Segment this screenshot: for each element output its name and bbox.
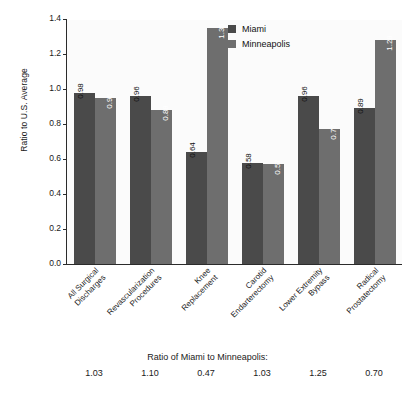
- legend-item[interactable]: Miami: [228, 24, 290, 34]
- ratio-value: 1.10: [125, 368, 175, 378]
- bar-group: 0.580.57: [235, 20, 291, 264]
- y-tick-label: 0.4: [49, 188, 61, 198]
- bar-value-label: 1.28: [386, 35, 394, 51]
- y-tick-mark: [63, 264, 67, 265]
- x-axis-category-labels: All SurgicalDischargesRevascularizationP…: [66, 266, 402, 346]
- ratio-title: Ratio of Miami to Minneapolis:: [0, 352, 415, 362]
- bar-value-label: 0.96: [301, 86, 309, 102]
- y-tick-label: 0.2: [49, 223, 61, 233]
- bar-group: 0.960.88: [123, 20, 179, 264]
- bar-minneapolis: 1.28: [375, 40, 396, 264]
- bar-minneapolis: 0.95: [95, 98, 116, 264]
- bar-series-container: 0.980.950.960.880.641.350.580.570.960.77…: [67, 20, 402, 264]
- bar-value-label: 0.57: [274, 159, 282, 175]
- bar-value-label: 0.88: [162, 105, 170, 121]
- ratio-value: 1.03: [69, 368, 119, 378]
- bar-group: 0.980.95: [67, 20, 123, 264]
- bar-value-label: 0.77: [330, 124, 338, 140]
- bar-miami: 0.96: [130, 96, 151, 264]
- legend-item[interactable]: Minneapolis: [228, 39, 290, 49]
- ratio-value: 0.47: [181, 368, 231, 378]
- bar-minneapolis: 0.77: [319, 129, 340, 264]
- legend-swatch-icon: [228, 25, 236, 33]
- legend-label: Miami: [242, 24, 266, 34]
- bar-chart-figure: Ratio to U.S. Average 0.00.20.40.60.81.0…: [0, 0, 415, 395]
- bar-value-label: 0.89: [357, 98, 365, 114]
- bar-minneapolis: 0.88: [151, 110, 172, 264]
- bar-value-label: 0.96: [133, 86, 141, 102]
- y-axis-title: Ratio to U.S. Average: [19, 40, 29, 180]
- chart-legend: MiamiMinneapolis: [228, 24, 290, 54]
- legend-swatch-icon: [228, 40, 236, 48]
- plot-area: 0.00.20.40.60.81.01.21.4 0.980.950.960.8…: [66, 20, 402, 265]
- ratio-value: 0.70: [349, 368, 399, 378]
- ratio-value: 1.25: [293, 368, 343, 378]
- bar-value-label: 0.64: [189, 142, 197, 158]
- y-tick-label: 1.4: [49, 13, 61, 23]
- bar-value-label: 0.98: [77, 83, 85, 99]
- ratio-values-row: 1.031.100.471.031.250.70: [66, 368, 402, 382]
- bar-miami: 0.98: [74, 93, 95, 265]
- y-tick-label: 1.2: [49, 48, 61, 58]
- bar-value-label: 0.58: [245, 153, 253, 169]
- bar-value-label: 0.95: [106, 93, 114, 109]
- bar-minneapolis: 1.35: [207, 28, 228, 264]
- y-tick-label: 0.0: [49, 258, 61, 268]
- bar-value-label: 1.35: [218, 23, 226, 39]
- y-tick-label: 0.8: [49, 118, 61, 128]
- y-tick-label: 1.0: [49, 83, 61, 93]
- legend-label: Minneapolis: [242, 39, 290, 49]
- y-tick-label: 0.6: [49, 153, 61, 163]
- ratio-value: 1.03: [237, 368, 287, 378]
